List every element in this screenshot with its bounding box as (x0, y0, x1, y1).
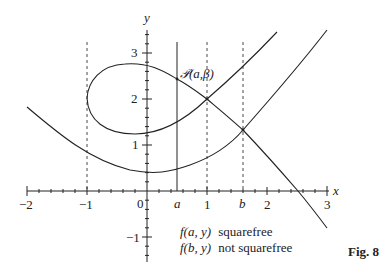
note-f-b-y: f(b, y) not squarefree (180, 240, 293, 255)
x-tick-label-0: 0 (137, 196, 144, 211)
y-tick-label-2: 2 (131, 91, 138, 106)
axis-label-x: x (332, 183, 339, 198)
x-tick-label-1: 1 (204, 197, 211, 212)
point-crossing-x-1 (206, 98, 209, 101)
axis-label-y: y (142, 10, 150, 25)
x-tick-label-3: 3 (324, 197, 331, 212)
point-label-p-a-beta: 𝒫(a,β) (180, 66, 214, 81)
x-tick-label-b: b (239, 196, 246, 211)
y-tick-label-minus-1: −1 (126, 230, 140, 245)
y-tick-label-3: 3 (131, 45, 138, 60)
x-tick-label-2: 2 (264, 197, 271, 212)
x-tick-label-minus-1: −1 (79, 197, 93, 212)
figure-label: Fig. 8 (348, 244, 380, 259)
x-tick-label-a: a (174, 196, 181, 211)
note-f-b-y-text: not squarefree (218, 240, 292, 255)
note-f-a-y: f(a, y) squarefree (180, 224, 273, 239)
point-crossing-x-b (242, 129, 245, 132)
x-tick-label-minus-2: −2 (19, 197, 33, 212)
curve-loop-lower-rising (87, 32, 277, 134)
y-tick-label-1: 1 (132, 137, 139, 152)
note-f-b-y-fn: f(b, y) (180, 240, 211, 255)
note-f-a-y-fn: f(a, y) (180, 224, 211, 239)
figure-8-plot: y x −2 −1 0 a 1 b 2 3 3 2 1 −1 𝒫(a,β) f(… (0, 0, 390, 274)
point-p-a-beta (176, 78, 179, 81)
note-f-a-y-text: squarefree (218, 224, 272, 239)
